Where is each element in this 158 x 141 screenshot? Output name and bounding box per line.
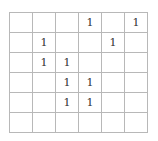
- grid-cell: 1: [79, 93, 102, 113]
- grid-cell: [33, 93, 56, 113]
- grid-row: 1 1: [10, 53, 148, 73]
- grid-cell: [33, 73, 56, 93]
- grid-cell: [102, 73, 125, 93]
- grid-cell: [102, 53, 125, 73]
- grid-row: 1 1: [10, 93, 148, 113]
- grid-cell: [56, 113, 79, 133]
- grid-cell: [56, 33, 79, 53]
- grid-cell: 1: [56, 53, 79, 73]
- grid-cell: [56, 13, 79, 33]
- grid-cell: 1: [102, 33, 125, 53]
- number-grid: 1 1 1 1 1 1 1 1: [9, 12, 148, 133]
- grid-cell: [10, 53, 33, 73]
- grid-cell: [10, 73, 33, 93]
- grid-cell: [79, 113, 102, 133]
- grid-cell: [102, 13, 125, 33]
- grid-cell: [33, 113, 56, 133]
- grid-cell: [10, 93, 33, 113]
- grid-cell: [10, 113, 33, 133]
- grid-cell: [10, 33, 33, 53]
- grid-row: 1 1: [10, 13, 148, 33]
- grid-cell: 1: [56, 93, 79, 113]
- grid-row: 1 1: [10, 73, 148, 93]
- grid-cell: 1: [33, 33, 56, 53]
- grid-cell: 1: [125, 13, 148, 33]
- grid-cell: [125, 33, 148, 53]
- grid-cell: 1: [56, 73, 79, 93]
- grid-cell: [102, 93, 125, 113]
- grid-cell: 1: [33, 53, 56, 73]
- grid-cell: [125, 93, 148, 113]
- grid-cell: [102, 113, 125, 133]
- grid-cell: 1: [79, 73, 102, 93]
- grid-cell: 1: [79, 13, 102, 33]
- grid-cell: [33, 13, 56, 33]
- grid-cell: [125, 73, 148, 93]
- grid-cell: [125, 113, 148, 133]
- grid-cell: [125, 53, 148, 73]
- grid-cell: [79, 53, 102, 73]
- grid-cell: [79, 33, 102, 53]
- grid-cell: [10, 13, 33, 33]
- grid-row: 1 1: [10, 33, 148, 53]
- grid-row: [10, 113, 148, 133]
